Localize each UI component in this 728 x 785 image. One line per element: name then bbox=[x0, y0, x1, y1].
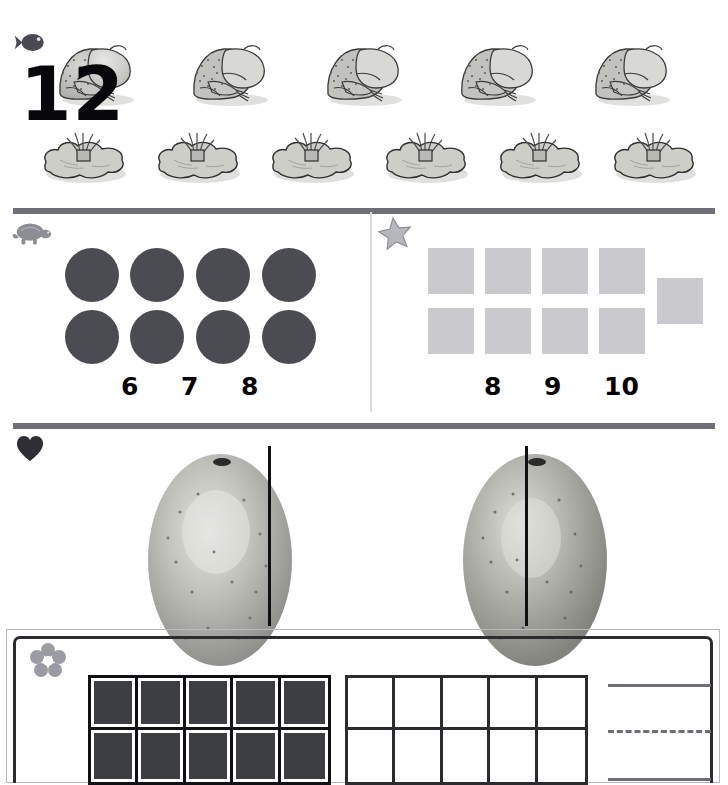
counting-square bbox=[599, 248, 645, 294]
ten-frame-cell[interactable] bbox=[91, 730, 138, 782]
answer-choice-6[interactable]: 6 bbox=[121, 372, 138, 401]
counting-square bbox=[428, 308, 474, 354]
ten-frame-cell[interactable] bbox=[281, 730, 328, 782]
counting-circle bbox=[130, 310, 184, 364]
counting-square-extra bbox=[657, 278, 703, 324]
worksheet-page: 6 7 8 8 9 10 bbox=[0, 0, 728, 785]
section-counting: 6 7 8 8 9 10 bbox=[0, 204, 728, 416]
lilypad-illustration bbox=[606, 130, 702, 186]
counting-circle bbox=[262, 248, 316, 302]
counting-square bbox=[428, 248, 474, 294]
ten-frame-chip bbox=[236, 733, 274, 779]
ten-frame-chip bbox=[284, 681, 325, 724]
ten-frame-cell[interactable] bbox=[138, 730, 185, 782]
counting-square bbox=[485, 248, 531, 294]
lilypad-illustration bbox=[378, 130, 474, 186]
ten-frame-chip bbox=[94, 681, 132, 724]
fruit-right-cut-line bbox=[525, 446, 528, 626]
frog-illustration bbox=[186, 36, 274, 108]
ten-frame-cell[interactable] bbox=[490, 730, 537, 782]
ten-frame-cell[interactable] bbox=[443, 678, 490, 730]
writing-line-top bbox=[608, 684, 711, 687]
fruit-left-cut-line bbox=[268, 446, 271, 626]
counting-circle bbox=[65, 248, 119, 302]
ten-frame-cell[interactable] bbox=[490, 678, 537, 730]
ten-frame-chip bbox=[189, 681, 227, 724]
heart-icon bbox=[14, 433, 46, 463]
frog-illustration bbox=[588, 36, 676, 108]
ten-frame-cell[interactable] bbox=[281, 678, 328, 730]
writing-line-bottom bbox=[608, 778, 711, 781]
counting-square bbox=[599, 308, 645, 354]
counting-circle bbox=[262, 310, 316, 364]
ten-frame-cell[interactable] bbox=[443, 730, 490, 782]
ten-frame-cell[interactable] bbox=[538, 730, 585, 782]
filled-ten-frame bbox=[88, 675, 331, 785]
ten-frame-cell[interactable] bbox=[186, 730, 233, 782]
ten-frame-cell[interactable] bbox=[348, 730, 395, 782]
ten-frame-cell[interactable] bbox=[91, 678, 138, 730]
ten-frame-chip bbox=[236, 681, 274, 724]
ten-frame-cell[interactable] bbox=[138, 678, 185, 730]
ten-frame-cell[interactable] bbox=[395, 730, 442, 782]
turtle-icon bbox=[12, 218, 54, 248]
frog-illustration bbox=[454, 36, 542, 108]
ten-frame-cell[interactable] bbox=[186, 678, 233, 730]
counting-square bbox=[542, 248, 588, 294]
lilypad-illustration bbox=[492, 130, 588, 186]
star-icon bbox=[378, 216, 412, 250]
empty-ten-frame bbox=[345, 675, 588, 785]
ten-frame-cell[interactable] bbox=[233, 678, 280, 730]
flower-icon bbox=[30, 643, 66, 679]
panel-vertical-divider bbox=[370, 212, 372, 412]
writing-practice-lines[interactable] bbox=[608, 675, 711, 785]
ten-frame-chip bbox=[141, 681, 179, 724]
ten-frame-chip bbox=[141, 733, 179, 779]
answer-choice-9[interactable]: 9 bbox=[544, 372, 561, 401]
section-fruit-halves bbox=[0, 420, 728, 625]
counting-circle bbox=[65, 310, 119, 364]
target-number: 12 bbox=[20, 57, 125, 131]
ten-frame-chip bbox=[284, 733, 325, 779]
counting-circle bbox=[130, 248, 184, 302]
counting-circle bbox=[196, 248, 250, 302]
ten-frame-chip bbox=[94, 733, 132, 779]
answer-choice-8[interactable]: 8 bbox=[241, 372, 258, 401]
counting-square bbox=[542, 308, 588, 354]
ten-frame-chip bbox=[189, 733, 227, 779]
answer-choice-7[interactable]: 7 bbox=[181, 372, 198, 401]
ten-frame-cell[interactable] bbox=[233, 730, 280, 782]
ten-frame-cell[interactable] bbox=[348, 678, 395, 730]
lilypad-illustration bbox=[36, 130, 132, 186]
ten-frame-cell[interactable] bbox=[538, 678, 585, 730]
writing-line-middle bbox=[608, 730, 711, 733]
frog-illustration bbox=[320, 36, 408, 108]
answer-choice-10[interactable]: 10 bbox=[604, 372, 639, 401]
counting-square bbox=[485, 308, 531, 354]
lilypad-illustration bbox=[264, 130, 360, 186]
lilypad-illustration bbox=[150, 130, 246, 186]
answer-choice-8[interactable]: 8 bbox=[484, 372, 501, 401]
counting-circle bbox=[196, 310, 250, 364]
ten-frame-cell[interactable] bbox=[395, 678, 442, 730]
